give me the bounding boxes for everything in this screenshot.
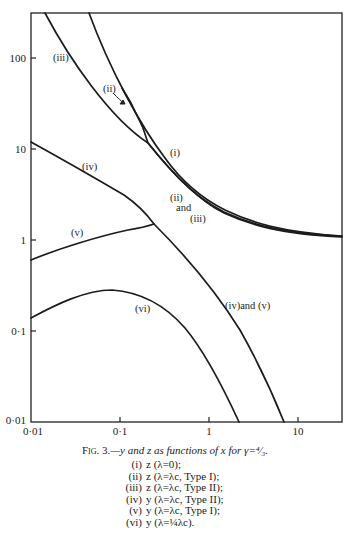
y-tick-100: 100 <box>0 52 26 64</box>
plot-svg <box>0 0 350 440</box>
x-tick-1: 1 <box>189 425 229 437</box>
curve-ii <box>122 88 342 237</box>
caption-legend: (i)z (λ=0); (ii)z (λ=λc, Type I); (iii)z… <box>112 459 224 529</box>
arrow-ii-icon <box>113 93 125 104</box>
chart-area: 100 10 1 0·1 0·01 0·01 0·1 1 10 (iii) (i… <box>0 0 350 440</box>
label-iv-and-v: (iv)and (v) <box>225 300 270 311</box>
label-v: (v) <box>71 227 83 238</box>
plot-frame <box>31 13 342 422</box>
x-ticks <box>120 417 298 422</box>
curve-v <box>31 224 154 260</box>
label-and-word: and <box>176 202 191 213</box>
label-vi: (vi) <box>135 303 150 314</box>
y-tick-1: 1 <box>0 234 26 246</box>
label-i: (i) <box>170 147 180 158</box>
caption-title-text: —y and z as functions of x for γ=⁴⁄₃. <box>110 444 268 456</box>
label-iii-and: (iii) <box>190 213 206 224</box>
x-tick-0.01: 0·01 <box>13 425 53 437</box>
y-tick-0.1: 0·1 <box>0 325 26 337</box>
label-iii-top: (iii) <box>53 52 69 63</box>
caption-fig-number: Fig. 3. <box>82 444 110 456</box>
figure-caption: Fig. 3.—y and z as functions of x for γ=… <box>0 444 350 456</box>
curve-iv <box>31 142 154 224</box>
caption-title: Fig. 3.—y and z as functions of x for γ=… <box>0 444 350 456</box>
curve-iii <box>45 13 342 237</box>
legend-item: (vi)y (λ=¼λc). <box>112 517 224 529</box>
x-tick-10: 10 <box>278 425 318 437</box>
curve-i <box>89 13 342 236</box>
label-iv: (iv) <box>82 161 97 172</box>
y-ticks <box>31 58 36 331</box>
curve-iv-and-v <box>154 224 284 422</box>
x-tick-0.1: 0·1 <box>100 425 140 437</box>
y-tick-10: 10 <box>0 143 26 155</box>
label-ii-top: (ii) <box>103 83 116 94</box>
